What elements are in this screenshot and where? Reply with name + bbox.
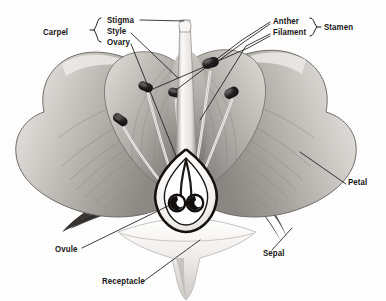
label-petal: Petal xyxy=(348,177,367,187)
flower-anatomy-diagram: Carpel Stigma Style Ovary Anther Filamen… xyxy=(0,0,386,301)
brace-stamen xyxy=(310,18,321,36)
label-filament: Filament xyxy=(273,27,306,37)
flower-illustration xyxy=(0,0,386,301)
leader-stigma xyxy=(140,20,184,21)
label-stamen: Stamen xyxy=(324,22,353,32)
label-receptacle: Receptacle xyxy=(102,276,145,286)
label-style: Style xyxy=(107,26,126,36)
stigma xyxy=(179,20,191,32)
label-sepal: Sepal xyxy=(263,248,285,258)
label-anther: Anther xyxy=(273,16,299,26)
label-carpel: Carpel xyxy=(43,27,68,37)
label-ovule: Ovule xyxy=(55,244,77,254)
label-stigma: Stigma xyxy=(107,15,134,25)
brace-carpel xyxy=(90,18,101,42)
label-ovary: Ovary xyxy=(107,37,130,47)
